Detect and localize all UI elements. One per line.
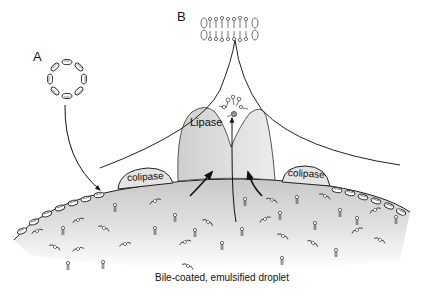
panel-label-a: A xyxy=(33,49,42,64)
diagram-canvas: A B Lipase colipase colipase Bile-coated… xyxy=(0,0,423,298)
colipase-right-label: colipase xyxy=(288,167,325,180)
diagram-svg xyxy=(0,0,423,298)
colipase-left-label: colipase xyxy=(127,170,164,183)
mixed-micelle-bilayer xyxy=(201,16,258,41)
lipase-label: Lipase xyxy=(190,116,222,128)
lipolysis-products xyxy=(219,95,248,117)
arrow-micelle-to-droplet xyxy=(65,105,100,190)
panel-label-b: B xyxy=(177,9,186,24)
bile-salt-micelle xyxy=(47,59,86,98)
droplet-caption: Bile-coated, emulsified droplet xyxy=(155,272,289,283)
